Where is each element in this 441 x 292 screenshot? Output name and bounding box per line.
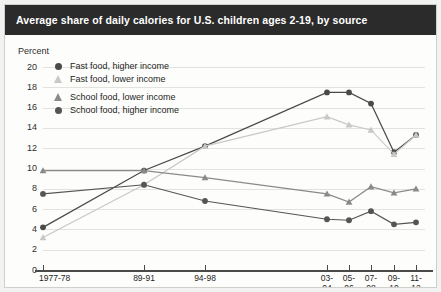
x-tick — [43, 265, 44, 271]
x-tick — [371, 265, 372, 271]
legend-item[interactable]: School food, lower income — [52, 90, 212, 103]
x-tick-label: 11- 12 — [404, 274, 428, 288]
legend-item-label: School food, lower income — [70, 92, 176, 102]
plot-area: 02468101214161820 1977-7889-9194-9803- 0… — [5, 5, 436, 287]
data-point — [40, 224, 46, 230]
data-point — [324, 89, 330, 95]
data-point — [413, 219, 419, 225]
x-tick-label: 09- 10 — [382, 274, 406, 288]
triangle-marker-icon — [52, 90, 65, 103]
x-tick-label: 94-98 — [188, 274, 222, 284]
data-point — [368, 208, 374, 214]
chart-legend: Fast food, higher incomeFast food, lower… — [52, 59, 212, 116]
series-line-3 — [43, 171, 416, 202]
data-point — [413, 185, 420, 191]
legend-item[interactable]: Fast food, lower income — [52, 72, 212, 85]
data-point — [346, 217, 352, 223]
x-tick — [349, 265, 350, 271]
data-point — [40, 234, 47, 240]
data-point — [40, 191, 46, 197]
data-point — [324, 113, 331, 119]
legend-item-label: Fast food, higher income — [70, 61, 169, 71]
x-tick-label: 1977-78 — [39, 274, 89, 284]
circle-marker-icon — [52, 103, 65, 116]
legend-item[interactable]: School food, higher income — [52, 103, 212, 116]
x-tick-label: 07- 08 — [359, 274, 383, 288]
x-tick-label: 03- 04 — [315, 274, 339, 288]
figure-container: Average share of daily calories for U.S.… — [0, 0, 441, 292]
series-lines-layer — [5, 5, 436, 287]
legend-item-label: School food, higher income — [70, 105, 179, 115]
legend-item-label: Fast food, lower income — [70, 74, 166, 84]
series-line-4 — [43, 185, 416, 225]
chart-frame: Average share of daily calories for U.S.… — [4, 4, 437, 288]
x-axis-line — [35, 270, 433, 272]
x-tick — [327, 265, 328, 271]
x-tick-label: 89-91 — [127, 274, 161, 284]
x-tick — [144, 265, 145, 271]
data-point — [368, 183, 375, 189]
legend-item[interactable]: Fast food, higher income — [52, 59, 212, 72]
x-tick — [416, 265, 417, 271]
circle-marker-icon — [52, 59, 65, 72]
data-point — [324, 216, 330, 222]
data-point — [346, 89, 352, 95]
x-tick-label: 05- 06 — [337, 274, 361, 288]
data-point — [141, 182, 147, 188]
triangle-marker-icon — [52, 72, 65, 85]
data-point — [391, 221, 397, 227]
x-tick — [394, 265, 395, 271]
data-point — [202, 198, 208, 204]
data-point — [368, 101, 374, 107]
x-tick — [205, 265, 206, 271]
